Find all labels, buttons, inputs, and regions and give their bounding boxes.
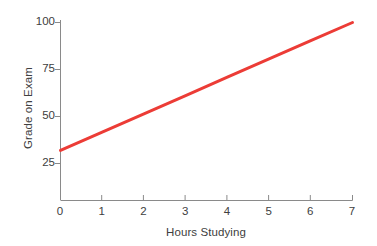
y-tick-marks [55, 23, 61, 164]
chart-container: Grade on Exam Hours Studying 25 50 75 10… [0, 0, 377, 246]
plot-area [0, 0, 377, 246]
regression-line [61, 23, 353, 151]
x-tick-marks [102, 195, 353, 201]
